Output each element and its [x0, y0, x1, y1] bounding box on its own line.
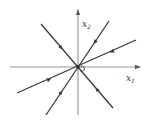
- phase-portrait-diagram: x1 x2: [0, 0, 149, 122]
- x1-axis-arrow-icon: [135, 65, 141, 69]
- equilibrium-point: [76, 65, 80, 69]
- x2-axis-arrow-icon: [76, 9, 80, 15]
- x2-label-subscript: 2: [86, 23, 91, 30]
- x1-axis-label: x1: [126, 73, 135, 84]
- x1-label-subscript: 1: [131, 77, 135, 84]
- trajectories: [17, 21, 136, 115]
- x2-axis-label: x2: [82, 19, 91, 30]
